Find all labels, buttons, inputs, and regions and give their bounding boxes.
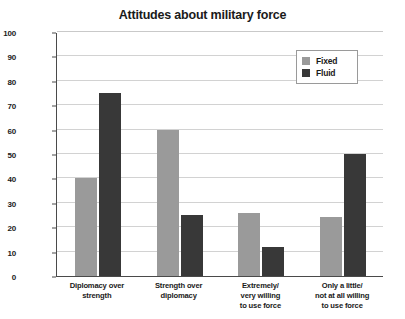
bar-fluid-2 (262, 247, 284, 276)
legend-label-fluid: Fluid (316, 68, 335, 78)
gridline (57, 31, 383, 32)
y-axis-tick-mark (52, 57, 56, 58)
x-axis-label-line: to use force (301, 301, 383, 311)
y-axis-tick-label: 60 (0, 126, 16, 135)
legend: Fixed Fluid (296, 50, 358, 84)
x-axis-label-line: Only a little/ (301, 281, 383, 291)
y-axis-tick-label: 50 (0, 151, 16, 160)
y-axis-tick-label: 80 (0, 77, 16, 86)
y-axis-tick-label: 70 (0, 102, 16, 111)
x-axis-label-0: Diplomacy overstrength (56, 281, 138, 301)
bar-fixed-0 (75, 178, 97, 276)
bar-fluid-0 (99, 93, 121, 276)
x-axis-label-line: Extremely/ (220, 281, 302, 291)
bar-fixed-1 (157, 130, 179, 276)
y-axis-tick-mark (52, 33, 56, 34)
x-axis-label-line: very willing (220, 291, 302, 301)
x-axis-label-1: Strength overdiplomacy (138, 281, 220, 301)
legend-item-fluid: Fluid (302, 67, 352, 79)
bar-fluid-3 (344, 154, 366, 276)
x-axis-label-line: strength (56, 291, 138, 301)
y-axis-tick-label: 10 (0, 248, 16, 257)
y-axis-tick-mark (52, 155, 56, 156)
y-axis-tick-mark (52, 130, 56, 131)
x-axis-label-line: Diplomacy over (56, 281, 138, 291)
y-axis-tick-mark (52, 81, 56, 82)
x-axis-label-line: to use force (220, 301, 302, 311)
y-axis-tick-label: 40 (0, 175, 16, 184)
chart-title: Attitudes about military force (0, 8, 405, 22)
chart-container: Attitudes about military force 010203040… (0, 0, 405, 319)
legend-item-fixed: Fixed (302, 55, 352, 67)
y-axis-tick-label: 100 (0, 29, 16, 38)
legend-label-fixed: Fixed (316, 56, 337, 66)
x-axis-label-line: diplomacy (138, 291, 220, 301)
legend-swatch-fluid-icon (302, 69, 310, 77)
y-axis-tick-label: 90 (0, 53, 16, 62)
x-axis-label-line: Strength over (138, 281, 220, 291)
bar-fixed-2 (238, 213, 260, 276)
legend-swatch-fixed-icon (302, 57, 310, 65)
x-axis-label-line: not at all willing (301, 291, 383, 301)
y-axis-tick-mark (52, 106, 56, 107)
y-axis-tick-mark (52, 277, 56, 278)
y-axis-tick-mark (52, 179, 56, 180)
y-axis-tick-label: 0 (0, 273, 16, 282)
bar-fluid-1 (181, 215, 203, 276)
y-axis-tick-mark (52, 228, 56, 229)
x-axis-label-2: Extremely/very willingto use force (220, 281, 302, 311)
x-axis-label-3: Only a little/not at all willingto use f… (301, 281, 383, 311)
bar-fixed-3 (320, 217, 342, 276)
y-axis-tick-label: 30 (0, 199, 16, 208)
y-axis-tick-mark (52, 203, 56, 204)
y-axis-tick-label: 20 (0, 224, 16, 233)
y-axis-tick-mark (52, 252, 56, 253)
